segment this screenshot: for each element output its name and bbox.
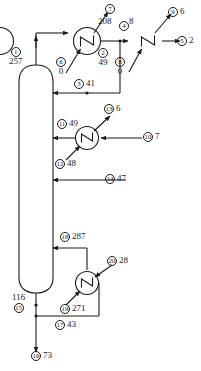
stream-13-value: 6 <box>116 103 121 113</box>
stream-7-value: 208 <box>98 16 112 26</box>
stream-19-label: 19271 <box>60 304 86 314</box>
stream-20-tag: 20 <box>107 256 117 266</box>
stream-12-value: 48 <box>67 158 76 168</box>
stream-8-utility-in <box>129 49 142 72</box>
condenser-1 <box>74 28 101 55</box>
stream-18-vapour-return <box>53 248 87 270</box>
stream-12-tag: 12 <box>55 159 65 169</box>
stream-17-tag: 17 <box>55 320 65 330</box>
stream-16-value: 73 <box>43 350 52 360</box>
stream-16-tag: 16 <box>31 351 41 361</box>
stream-7-tag-wrap: 7 <box>105 4 115 14</box>
stream-6-utility-in <box>66 49 81 73</box>
column-bottoms-line <box>36 283 99 352</box>
stream-19-tag: 19 <box>60 304 70 314</box>
stream-20-value: 28 <box>119 255 128 265</box>
stream-2-label: 2 49 <box>98 48 108 68</box>
stream-3-value: 41 <box>86 78 95 88</box>
stream-20-utility-in <box>95 265 112 277</box>
stream-7-value-wrap: 208 <box>98 17 112 27</box>
stream-4-label: 48 <box>119 17 134 31</box>
stream-6-value: 0 <box>59 66 64 76</box>
stream-9-tag: 9 <box>168 7 178 17</box>
stream-2-value: 49 <box>99 57 108 67</box>
stream-1-value: 257 <box>9 56 23 66</box>
stream-1-label: 1 257 <box>9 47 23 67</box>
stream-11-value: 49 <box>69 118 78 128</box>
stream-10-tag: 10 <box>143 132 153 142</box>
stream-14-label: 1447 <box>105 174 126 184</box>
stream-5-label: 52 <box>177 36 194 46</box>
stream-11-label: 1149 <box>57 119 78 129</box>
stream-4-tag: 4 <box>119 21 129 31</box>
stream-13-tag: 13 <box>104 104 114 114</box>
stream-17-label: 1743 <box>55 320 76 330</box>
distillation-column <box>19 65 53 293</box>
stream-5-tag: 5 <box>177 36 187 46</box>
stream-20-label: 2028 <box>107 256 128 266</box>
stream-17-value: 43 <box>67 319 76 329</box>
stream-3-tag: 3 <box>74 79 84 89</box>
stream-10-label: 107 <box>143 132 160 142</box>
stream-18-label: 18287 <box>60 232 86 242</box>
stream-9-label: 96 <box>168 7 185 17</box>
stream-8-label: 8 0 <box>115 57 125 77</box>
stream-15-tag: 15 <box>14 303 24 313</box>
stream-9-value: 6 <box>180 6 185 16</box>
stream-15-value: 116 <box>12 292 25 302</box>
stream-18-tag: 18 <box>60 232 70 242</box>
stream-10-value: 7 <box>155 131 160 141</box>
reboiler <box>76 272 99 295</box>
stream-3-label: 341 <box>74 79 95 89</box>
stream-16-label: 1673 <box>31 351 52 361</box>
stream-14-value: 47 <box>117 173 126 183</box>
stream-8-value: 0 <box>118 66 123 76</box>
stream-6-label: 6 0 <box>56 57 66 77</box>
stream-13-label: 136 <box>104 104 121 114</box>
stream-13-utility-out <box>94 116 110 131</box>
stream-18-value: 287 <box>72 231 86 241</box>
stream-7-tag: 7 <box>105 4 115 14</box>
stream-5-value: 2 <box>189 35 194 45</box>
stream-12-label: 1248 <box>55 159 76 169</box>
process-flow-diagram: 1 257 6 0 7 208 48 96 52 2 49 8 0 341 13… <box>0 0 201 371</box>
stream-19-value: 271 <box>72 303 86 313</box>
stream-14-tag: 14 <box>105 174 115 184</box>
stream-4-value: 8 <box>129 16 134 26</box>
stream-15-label: 116 15 <box>12 293 25 313</box>
stream-11-tag: 11 <box>57 119 67 129</box>
